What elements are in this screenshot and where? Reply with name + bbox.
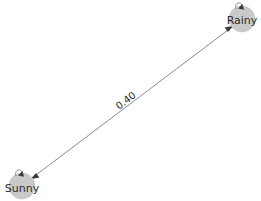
edge-weight-group: 0.40 (113, 90, 137, 112)
edge-weight-label: 0.40 (113, 90, 137, 112)
state-transition-diagram: Sunny Rainy 0.40 (0, 0, 261, 201)
diagram-canvas: Sunny Rainy 0.40 (0, 0, 261, 201)
node-sunny[interactable]: Sunny (5, 170, 40, 199)
node-rainy-label: Rainy (227, 14, 258, 27)
node-sunny-label: Sunny (5, 182, 40, 195)
